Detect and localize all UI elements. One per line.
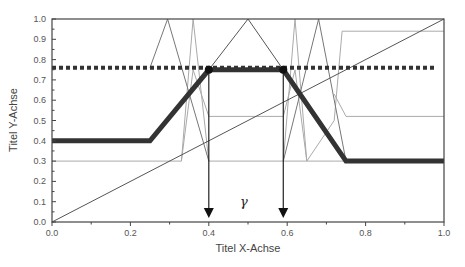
y-tick-label: 0.8 (33, 55, 46, 65)
x-tick-label: 0.2 (124, 228, 137, 238)
series-right-step-low (334, 94, 444, 116)
y-tick-label: 0.2 (33, 176, 46, 186)
y-axis-title: Titel Y-Achse (7, 88, 19, 152)
x-tick-label: 0.8 (359, 228, 372, 238)
series-layer (52, 19, 444, 222)
series-diagonal (52, 19, 444, 222)
y-tick-label: 0.0 (33, 217, 46, 227)
chart-container: 0.00.20.40.60.81.00.00.10.20.30.40.50.60… (0, 0, 465, 267)
y-tick-label: 0.9 (33, 34, 46, 44)
y-tick-label: 0.3 (33, 156, 46, 166)
x-axis-title: Titel X-Achse (215, 242, 280, 254)
series-upper-step (209, 31, 444, 161)
arrow-head-icon (204, 208, 214, 218)
data-marker-0 (205, 66, 213, 74)
line-chart: 0.00.20.40.60.81.00.00.10.20.30.40.50.60… (0, 0, 465, 267)
y-tick-label: 0.1 (33, 197, 46, 207)
y-tick-label: 0.6 (33, 95, 46, 105)
y-tick-label: 1.0 (33, 14, 46, 24)
x-tick-label: 1.0 (438, 228, 451, 238)
y-tick-label: 0.7 (33, 75, 46, 85)
y-tick-label: 0.4 (33, 136, 46, 146)
arrow-head-icon (278, 208, 288, 218)
x-tick-label: 0.4 (203, 228, 216, 238)
data-marker-1 (279, 66, 287, 74)
series-lower-step (52, 70, 444, 161)
y-tick-label: 0.5 (33, 116, 46, 126)
series-thick-profile (52, 70, 444, 161)
series-triangle-peak (209, 19, 283, 70)
x-tick-label: 0.6 (281, 228, 294, 238)
x-tick-label: 0.0 (46, 228, 59, 238)
gamma-annotation: γ (240, 194, 248, 209)
